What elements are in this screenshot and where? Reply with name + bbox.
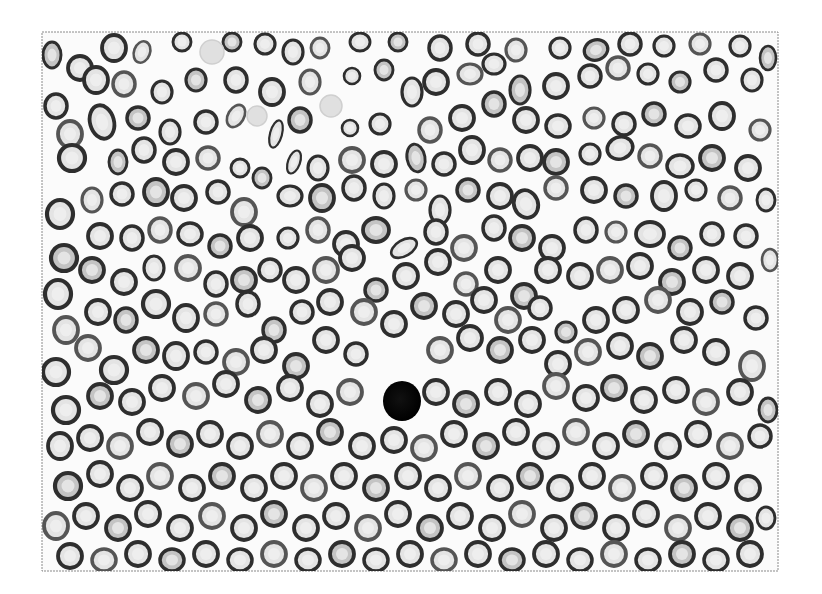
red-blood-cell [584, 108, 604, 128]
red-blood-cell [53, 397, 79, 423]
red-blood-cell [111, 183, 133, 205]
red-blood-cell [428, 338, 452, 362]
red-blood-cell [311, 38, 329, 58]
red-blood-cell [664, 378, 688, 402]
red-blood-cell [314, 328, 338, 352]
red-blood-cell [255, 34, 275, 54]
red-blood-cell [672, 476, 696, 500]
red-blood-cell [118, 476, 142, 500]
red-blood-cell [194, 542, 218, 566]
red-blood-cell [54, 317, 78, 343]
red-blood-cell [745, 307, 767, 329]
red-blood-cell [670, 72, 690, 92]
red-blood-cell [314, 258, 338, 282]
red-blood-cell [444, 302, 468, 326]
red-blood-cell [144, 179, 168, 205]
red-blood-cell [457, 179, 479, 201]
red-blood-cell [214, 372, 238, 396]
red-blood-cell [356, 516, 380, 540]
red-blood-cell [186, 69, 206, 91]
red-blood-cell [88, 224, 112, 248]
red-blood-cell [518, 464, 542, 488]
red-blood-cell [253, 168, 271, 188]
red-blood-cell [232, 268, 256, 292]
red-blood-cell [330, 542, 354, 566]
red-blood-cell [115, 308, 137, 332]
red-blood-cell [144, 256, 164, 280]
red-blood-cell [483, 92, 505, 116]
red-blood-cell [740, 352, 764, 380]
red-blood-cell [340, 246, 364, 270]
red-blood-cell [759, 398, 777, 422]
red-blood-cell [80, 258, 104, 282]
red-blood-cell [246, 388, 270, 412]
red-blood-cell [223, 33, 241, 51]
red-blood-cell [700, 146, 724, 170]
red-blood-cell [45, 280, 71, 308]
red-blood-cell [704, 549, 728, 571]
red-blood-cell [149, 218, 171, 242]
red-blood-cell [516, 392, 540, 416]
red-blood-cell [398, 542, 422, 566]
red-blood-cell [568, 549, 592, 571]
red-blood-cell [424, 70, 448, 94]
red-blood-cell [262, 502, 286, 526]
red-blood-cell [302, 476, 326, 500]
red-blood-cell [138, 420, 162, 444]
red-blood-cell [639, 145, 661, 167]
red-blood-cell [580, 144, 600, 164]
red-blood-cell [540, 236, 564, 260]
red-blood-cell [608, 334, 632, 358]
red-blood-cell [429, 36, 451, 60]
red-blood-cell [86, 300, 110, 324]
red-blood-cell [544, 374, 568, 398]
red-blood-cell [534, 434, 558, 458]
red-blood-cell [580, 464, 604, 488]
red-blood-cell [638, 344, 662, 368]
red-blood-cell [454, 392, 478, 416]
red-blood-cell [252, 338, 276, 362]
red-blood-cell [496, 308, 520, 332]
red-blood-cell [628, 254, 652, 278]
red-blood-cell [109, 150, 127, 174]
red-blood-cell [568, 264, 592, 288]
red-blood-cell [418, 516, 442, 540]
red-blood-cell [43, 42, 61, 68]
red-blood-cell [450, 106, 474, 130]
red-blood-cell [458, 326, 482, 350]
red-blood-cell [364, 549, 388, 571]
red-blood-cell [619, 33, 641, 55]
red-blood-cell [310, 185, 334, 211]
red-blood-cell [288, 434, 312, 458]
red-blood-cell [76, 336, 100, 360]
red-blood-cell [307, 218, 329, 242]
red-blood-cell [432, 549, 456, 571]
red-blood-cell [425, 220, 447, 244]
red-blood-cell [207, 181, 229, 203]
red-blood-cell [402, 78, 422, 106]
red-blood-cell [150, 376, 174, 400]
red-blood-cell [667, 155, 693, 177]
red-blood-cell [598, 258, 622, 282]
red-blood-cell [701, 223, 723, 245]
red-blood-cell [74, 504, 98, 528]
red-blood-cell [676, 115, 700, 137]
red-blood-cell [374, 184, 394, 208]
red-blood-cell [686, 422, 710, 446]
red-blood-cell [576, 340, 600, 364]
red-blood-cell [318, 420, 342, 444]
red-blood-cell [58, 544, 82, 568]
red-blood-cell [433, 153, 455, 175]
red-blood-cell [670, 542, 694, 566]
red-blood-cell [88, 462, 112, 486]
red-blood-cell [710, 103, 734, 129]
red-blood-cell [542, 516, 566, 540]
red-blood-cell [350, 434, 374, 458]
red-blood-cell [483, 216, 505, 240]
red-blood-cell [296, 549, 320, 571]
red-blood-cell [489, 149, 511, 171]
red-blood-cell [556, 322, 576, 342]
red-blood-cell [127, 107, 149, 129]
red-blood-cell [574, 386, 598, 410]
red-blood-cell [615, 185, 637, 207]
